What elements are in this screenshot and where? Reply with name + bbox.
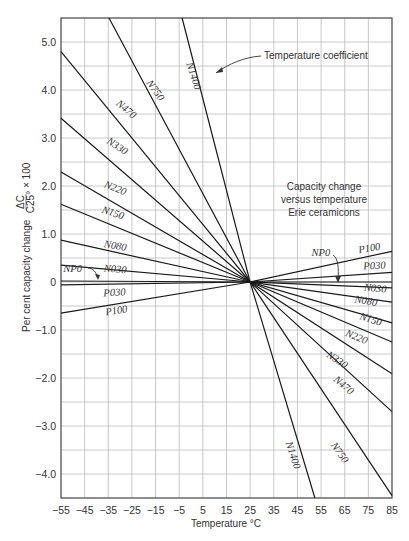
arrowhead-icon: [95, 274, 100, 280]
x-tick-label: 65: [339, 504, 351, 516]
series-label-n030-left: N030: [102, 262, 127, 275]
y-tick-label: −2.0: [35, 372, 56, 384]
y-axis-title-suffix: × 100: [21, 162, 32, 188]
y-tick-label: 0: [50, 276, 56, 288]
series-labels: N1400N1400N750N750N470N470N330N330N220N2…: [62, 60, 387, 471]
y-tick-label: 1.0: [41, 228, 56, 240]
x-tick-label: 35: [268, 504, 280, 516]
series-label-n150-left: N150: [100, 204, 127, 222]
x-tick-label: 55: [315, 504, 327, 516]
y-tick-label: −1.0: [35, 324, 56, 336]
y-tick-label: 4.0: [41, 84, 56, 96]
series-label-p030-left: P030: [102, 286, 126, 298]
x-tick-label: 25: [244, 504, 256, 516]
series-label-n220-left: N220: [102, 178, 129, 197]
annotation-text: Temperature coefficient: [264, 50, 368, 61]
series-label-p100-right: P100: [357, 241, 382, 256]
y-axis-ticks: 5.04.03.02.01.00−1.0−2.0−3.0−4.0: [35, 36, 56, 480]
chart-title-line-1: Capacity change: [287, 181, 362, 192]
arrowhead-icon: [216, 67, 223, 73]
np0-right-arrow: [333, 255, 341, 283]
np0-left-arrow: [88, 268, 100, 280]
x-tick-label: −25: [123, 504, 141, 516]
x-axis-ticks: −55−45−35−25−15−551525354555657585: [52, 504, 398, 516]
x-tick-label: 85: [386, 504, 398, 516]
x-tick-label: 5: [200, 504, 206, 516]
series-label-n750-right: N750: [328, 439, 351, 465]
annotation-arrow: [216, 56, 261, 73]
chart-title-line-3: Erie ceramicons: [288, 207, 360, 218]
y-tick-label: −3.0: [35, 420, 56, 432]
x-tick-label: 75: [363, 504, 375, 516]
temperature-coefficient-annotation: Temperature coefficient: [216, 50, 368, 73]
x-tick-label: 45: [292, 504, 304, 516]
y-axis-fraction-denominator: C25°: [25, 191, 36, 213]
y-axis-title-prefix: Per cent capacity change: [21, 219, 32, 332]
chart-title: Capacity change versus temperature Erie …: [281, 181, 368, 218]
series-label-n1400-left: N1400: [184, 60, 204, 92]
x-axis-title: Temperature °C: [191, 518, 261, 529]
series-label-p030-right: P030: [362, 259, 386, 271]
series-label-n150-right: N150: [357, 310, 384, 328]
x-tick-label: −45: [76, 504, 94, 516]
x-tick-label: −35: [99, 504, 117, 516]
series-label-n330-right: N330: [324, 348, 351, 371]
chart-title-line-2: versus temperature: [281, 194, 368, 205]
series-label-np0-left: NP0: [62, 263, 82, 274]
series-label-n030-right: N030: [362, 282, 387, 295]
y-tick-label: 5.0: [41, 36, 56, 48]
grid: [61, 18, 392, 498]
series-label-p100-left: P100: [104, 303, 129, 318]
x-tick-label: 15: [221, 504, 233, 516]
x-tick-label: −15: [147, 504, 165, 516]
y-axis-title: Per cent capacity change ΔC C25° × 100: [15, 162, 36, 332]
series-label-n470-left: N470: [113, 97, 139, 121]
capacity-change-chart: N1400N1400N750N750N470N470N330N330N220N2…: [0, 0, 409, 541]
x-tick-label: −5: [173, 504, 185, 516]
x-tick-label: −55: [52, 504, 70, 516]
series-label-np0-right: NP0: [311, 247, 331, 258]
y-tick-label: 2.0: [41, 180, 56, 192]
y-tick-label: −4.0: [35, 468, 56, 480]
y-tick-label: 3.0: [41, 132, 56, 144]
series-label-n1400-right: N1400: [283, 439, 303, 471]
